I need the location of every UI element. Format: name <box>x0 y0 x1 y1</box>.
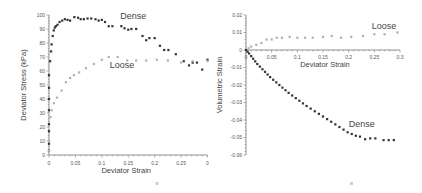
x-tick-label: 0 <box>245 54 248 60</box>
x-tick-label: 0.25 <box>369 54 379 60</box>
data-point <box>141 35 143 37</box>
y-tick-label: 10 <box>39 138 45 144</box>
data-point <box>85 67 87 69</box>
data-point <box>373 33 375 35</box>
series-loose <box>245 31 399 51</box>
data-point <box>334 123 336 125</box>
data-point <box>255 44 257 46</box>
y-tick-label: 60 <box>39 68 45 74</box>
data-point <box>58 21 60 23</box>
data-point <box>289 36 291 38</box>
data-point <box>326 118 328 120</box>
data-point <box>261 68 263 70</box>
data-point <box>364 138 366 140</box>
y-tick-label: 0 <box>239 47 242 53</box>
data-point <box>304 37 306 39</box>
data-point <box>250 55 252 57</box>
data-point <box>127 29 129 31</box>
data-point <box>269 76 271 78</box>
data-point <box>272 79 274 81</box>
data-point <box>93 63 95 65</box>
y-tick-label: 90 <box>39 26 45 32</box>
data-point <box>48 130 50 132</box>
data-point <box>73 74 75 76</box>
data-point <box>69 77 71 79</box>
data-point <box>51 43 53 45</box>
data-point <box>86 17 88 19</box>
data-point <box>145 59 147 61</box>
y-tick-label: -0.03 <box>231 99 243 105</box>
data-point <box>130 28 132 30</box>
y-tick-label: 0.02 <box>232 12 242 18</box>
data-point <box>167 59 169 61</box>
data-point <box>278 84 280 86</box>
data-point <box>48 140 50 142</box>
data-point <box>314 110 316 112</box>
data-point <box>48 98 50 100</box>
data-point <box>49 60 51 62</box>
data-point <box>250 45 252 47</box>
data-point <box>247 47 249 49</box>
y-tick-label: 30 <box>39 110 45 116</box>
data-point <box>101 19 103 21</box>
data-point <box>111 25 113 27</box>
data-point <box>180 62 182 64</box>
data-point <box>108 25 110 27</box>
data-point <box>393 139 395 141</box>
x-tick-label: 0 <box>206 160 209 166</box>
data-point <box>188 64 190 66</box>
data-point <box>156 59 158 61</box>
data-point <box>338 126 340 128</box>
data-point <box>90 17 92 19</box>
data-point <box>281 37 283 39</box>
data-point <box>159 45 161 47</box>
x-tick-label: 0.2 <box>151 160 158 166</box>
data-point <box>108 56 110 58</box>
data-point <box>56 24 58 26</box>
data-point <box>355 135 357 137</box>
data-point <box>302 102 304 104</box>
y-tick-label: 80 <box>39 40 45 46</box>
data-point <box>330 121 332 123</box>
data-point <box>65 81 67 83</box>
data-point <box>48 74 50 76</box>
data-point <box>276 37 278 39</box>
data-point <box>183 60 185 62</box>
data-point <box>167 49 169 51</box>
data-point <box>135 28 137 30</box>
data-point <box>369 137 371 139</box>
y-tick-label: 40 <box>39 96 45 102</box>
data-point <box>275 81 277 83</box>
data-point <box>123 27 125 29</box>
data-point <box>48 109 50 111</box>
data-point <box>78 71 80 73</box>
data-point <box>64 18 66 20</box>
series-label-dense: Dense <box>120 11 146 21</box>
data-point <box>192 60 194 62</box>
data-point <box>48 123 50 125</box>
series-label-dense: Dense <box>349 119 375 129</box>
series-label-loose: Loose <box>372 21 397 31</box>
data-point <box>254 60 256 62</box>
y-tick-label: 0.01 <box>232 29 242 35</box>
data-point <box>260 42 262 44</box>
data-point <box>117 56 119 58</box>
data-point <box>305 105 307 107</box>
data-point <box>148 37 150 39</box>
data-point <box>101 59 103 61</box>
data-point <box>265 38 267 40</box>
data-point <box>56 97 58 99</box>
data-point <box>374 137 376 139</box>
series-dense <box>48 16 209 152</box>
data-point <box>80 18 82 20</box>
data-point <box>61 20 63 22</box>
data-point <box>340 37 342 39</box>
data-point <box>310 108 312 110</box>
data-point <box>288 92 290 94</box>
y-tick-label: 70 <box>39 54 45 60</box>
data-point <box>350 36 352 38</box>
y-tick-label: 100 <box>37 12 46 18</box>
data-point <box>48 87 50 89</box>
data-point <box>318 113 320 115</box>
y-axis-title: Volumetric Strain <box>215 57 224 114</box>
